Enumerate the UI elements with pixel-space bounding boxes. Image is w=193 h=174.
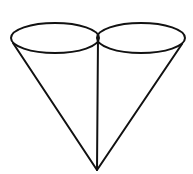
right-slant-edge bbox=[97, 44, 182, 170]
right-cone-base bbox=[97, 23, 185, 53]
shared-vertical-edge bbox=[97, 38, 98, 170]
left-slant-edge bbox=[13, 43, 97, 170]
twin-cones-diagram bbox=[0, 0, 193, 174]
left-cone-base bbox=[11, 23, 99, 53]
